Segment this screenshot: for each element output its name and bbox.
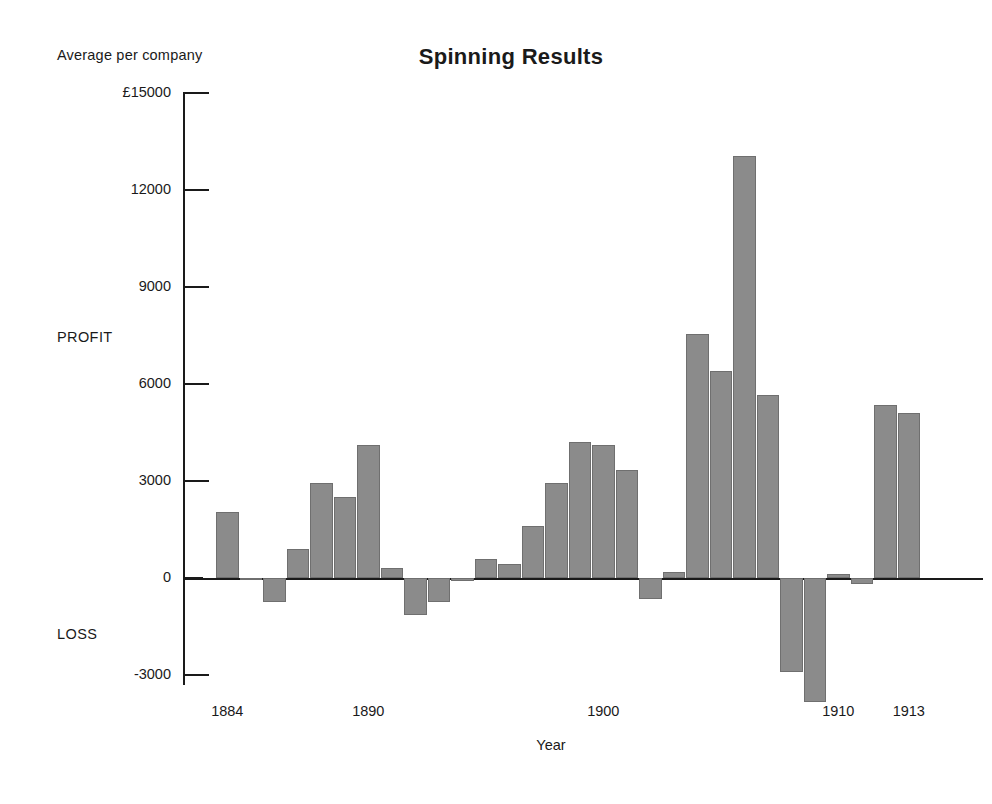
y-tick-label: 9000 xyxy=(51,278,171,294)
bar xyxy=(780,578,803,672)
bar xyxy=(216,512,239,578)
y-tick-0 xyxy=(183,577,203,579)
bar xyxy=(522,526,545,578)
bar xyxy=(874,405,897,578)
profit-caption: PROFIT xyxy=(57,329,113,345)
bar xyxy=(240,578,263,580)
bar xyxy=(404,578,427,615)
bar xyxy=(710,371,733,578)
bar xyxy=(357,445,380,578)
bar xyxy=(287,549,310,578)
y-tick--3000 xyxy=(183,674,209,676)
y-axis-line xyxy=(183,93,185,685)
bar xyxy=(898,413,921,578)
bar xyxy=(686,334,709,578)
x-tick-label: 1890 xyxy=(338,703,398,719)
bar xyxy=(804,578,827,702)
loss-caption: LOSS xyxy=(57,626,97,642)
bar xyxy=(592,445,615,578)
y-tick-label: 12000 xyxy=(51,181,171,197)
y-tick-label: £15000 xyxy=(51,84,171,100)
bar xyxy=(639,578,662,599)
bar xyxy=(334,497,357,578)
bar xyxy=(827,574,850,578)
bar xyxy=(381,568,404,578)
bar xyxy=(475,559,498,578)
y-tick-label: 6000 xyxy=(51,375,171,391)
y-tick-label: 0 xyxy=(51,569,171,585)
bar xyxy=(663,572,686,578)
x-axis-caption: Year xyxy=(0,737,992,753)
bar xyxy=(569,442,592,578)
chart-canvas: Average per company Spinning Results £15… xyxy=(0,0,992,804)
y-tick-9000 xyxy=(183,286,209,288)
y-tick-3000 xyxy=(183,480,209,482)
y-tick-12000 xyxy=(183,189,209,191)
bar xyxy=(851,578,874,584)
y-tick-label: -3000 xyxy=(51,666,171,682)
bar xyxy=(310,483,333,578)
x-tick-label: 1884 xyxy=(197,703,257,719)
bar xyxy=(616,470,639,578)
bar xyxy=(733,156,756,578)
bar xyxy=(757,395,780,578)
bar xyxy=(263,578,286,602)
y-tick-15000 xyxy=(183,92,209,94)
bar xyxy=(545,483,568,578)
x-tick-label: 1900 xyxy=(573,703,633,719)
chart-title: Spinning Results xyxy=(0,44,992,70)
x-axis-caption-text: Year xyxy=(536,737,565,753)
bar xyxy=(428,578,451,602)
bar xyxy=(451,578,474,581)
x-tick-label: 1913 xyxy=(879,703,939,719)
bar xyxy=(498,564,521,578)
x-tick-label: 1910 xyxy=(808,703,868,719)
y-tick-6000 xyxy=(183,383,209,385)
chart-title-text: Spinning Results xyxy=(419,44,603,69)
plot-area xyxy=(183,85,992,710)
y-tick-label: 3000 xyxy=(51,472,171,488)
